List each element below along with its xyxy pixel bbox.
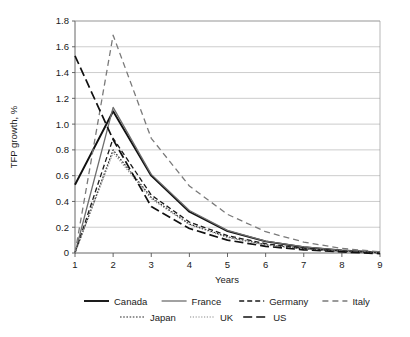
y-tick-label: 1.4	[56, 67, 69, 78]
legend-label-italy: Italy	[352, 296, 370, 307]
x-tick-label: 2	[110, 259, 115, 270]
y-tick-label: 1.0	[56, 119, 69, 130]
legend-label-france: France	[192, 296, 222, 307]
legend-label-us: US	[273, 312, 286, 323]
y-tick-label: 0.2	[56, 222, 69, 233]
y-tick-label: 1.6	[56, 41, 69, 52]
legend-label-japan: Japan	[150, 312, 176, 323]
y-tick-label: 0	[64, 247, 69, 258]
y-tick-label: 0.4	[56, 196, 69, 207]
y-tick-label: 1.8	[56, 15, 69, 26]
x-axis-title: Years	[215, 274, 239, 285]
legend-label-canada: Canada	[114, 296, 148, 307]
x-tick-label: 8	[339, 259, 344, 270]
legend: CanadaFranceGermanyItalyJapanUKUS	[84, 296, 370, 323]
x-tick-label: 9	[377, 259, 382, 270]
legend-label-germany: Germany	[269, 296, 308, 307]
x-tick-label: 7	[301, 259, 306, 270]
y-axis-title: TFP growth, %	[8, 105, 19, 168]
chart-canvas: 1.81.61.41.21.00.80.60.40.20 123456789 Y…	[0, 0, 410, 337]
x-tick-label: 5	[225, 259, 230, 270]
tfp-growth-line-chart: 1.81.61.41.21.00.80.60.40.20 123456789 Y…	[0, 0, 410, 337]
x-tick-label: 6	[263, 259, 268, 270]
legend-label-uk: UK	[220, 312, 234, 323]
x-tick-label: 1	[72, 259, 77, 270]
x-tick-label: 3	[149, 259, 154, 270]
x-tick-labels-group: 123456789	[72, 259, 382, 270]
y-tick-label: 0.8	[56, 144, 69, 155]
x-tick-marks-group	[75, 253, 380, 257]
y-tick-label: 1.2	[56, 93, 69, 104]
y-tick-label: 0.6	[56, 170, 69, 181]
y-tick-labels-group: 1.81.61.41.21.00.80.60.40.20	[56, 15, 69, 258]
x-tick-label: 4	[187, 259, 192, 270]
